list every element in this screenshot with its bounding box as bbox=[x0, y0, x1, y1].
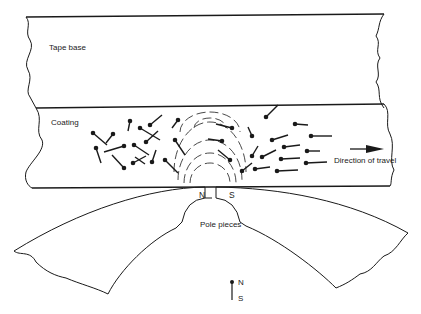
tape-base-layer bbox=[26, 14, 384, 108]
legend-south-label: S bbox=[238, 294, 243, 303]
pole-pieces-label: Pole pieces bbox=[200, 220, 241, 229]
polarity-legend: N S bbox=[230, 278, 244, 303]
tape-base-label: Tape base bbox=[49, 43, 86, 52]
legend-north-label: N bbox=[238, 278, 244, 287]
magnetic-field-lines bbox=[174, 112, 246, 183]
coating-layer bbox=[25, 104, 394, 188]
magnetic-particles-random bbox=[91, 115, 185, 173]
tape-head-diagram: Tape base Coating Direction of travel N … bbox=[0, 0, 421, 314]
head-north-label: N bbox=[199, 190, 205, 200]
direction-arrow-icon bbox=[350, 145, 384, 153]
recording-head bbox=[14, 187, 408, 294]
head-south-label: S bbox=[229, 190, 235, 200]
direction-label: Direction of travel bbox=[334, 156, 396, 165]
coating-label: Coating bbox=[51, 118, 79, 127]
